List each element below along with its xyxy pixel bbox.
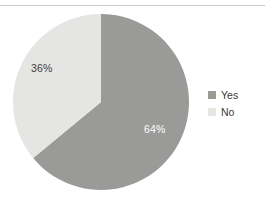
slice-label-no: 36% (31, 63, 52, 74)
pie-chart-figure: 36% 64% Yes No (0, 0, 265, 203)
legend-label-no: No (221, 107, 234, 118)
legend-swatch-no-icon (208, 108, 216, 116)
chart-legend: Yes No (208, 89, 238, 118)
legend-swatch-yes-icon (208, 91, 216, 99)
plot-area: 36% 64% Yes No (0, 0, 265, 203)
pie-graphic (13, 14, 189, 190)
legend-item-yes[interactable]: Yes (208, 89, 238, 101)
legend-item-no[interactable]: No (208, 106, 238, 118)
slice-label-yes: 64% (144, 124, 165, 135)
legend-label-yes: Yes (221, 90, 238, 101)
